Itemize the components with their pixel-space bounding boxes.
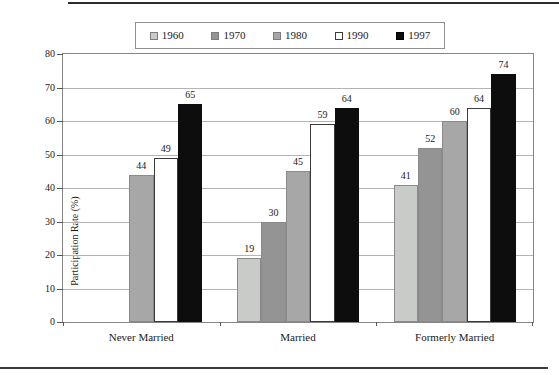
legend-label: 1997 <box>408 30 430 41</box>
legend-item-1980: 1980 <box>273 30 307 41</box>
bar-value-label: 19 <box>229 244 269 254</box>
bar-value-label: 49 <box>146 144 186 154</box>
bar-value-label: 64 <box>459 94 499 104</box>
legend-label: 1960 <box>162 30 184 41</box>
category-label-never-married: Never Married <box>63 332 220 343</box>
legend-label: 1980 <box>285 30 307 41</box>
y-tick-label: 60 <box>29 116 55 126</box>
bar-1990-formerly-married <box>467 108 491 322</box>
bar-1990-married <box>310 124 334 322</box>
bar-value-label: 60 <box>435 107 475 117</box>
figure: 19601970198019901997 Participation Rate … <box>0 0 559 375</box>
x-tick <box>532 322 533 326</box>
bar-1990-never-married <box>154 158 178 322</box>
bar-value-label: 41 <box>386 171 426 181</box>
y-tick-label: 20 <box>29 250 55 260</box>
legend-marker-1997 <box>396 32 404 40</box>
category-label-formerly-married: Formerly Married <box>376 332 533 343</box>
x-tick <box>63 322 64 326</box>
bar-value-label: 59 <box>302 110 342 120</box>
y-tick <box>57 54 63 55</box>
y-tick-label: 10 <box>29 284 55 294</box>
y-tick-label: 30 <box>29 217 55 227</box>
bar-1997-formerly-married <box>491 74 515 322</box>
bar-value-label: 64 <box>327 94 367 104</box>
legend-marker-1960 <box>150 32 158 40</box>
legend-marker-1970 <box>211 32 219 40</box>
gridline <box>63 88 533 89</box>
bar-value-label: 65 <box>170 90 210 100</box>
bar-value-label: 45 <box>278 157 318 167</box>
plot-area: Participation Rate (%) 01020304050607080… <box>62 53 534 323</box>
legend-item-1997: 1997 <box>396 30 430 41</box>
legend-marker-1990 <box>335 32 343 40</box>
legend-label: 1990 <box>347 30 369 41</box>
legend: 19601970198019901997 <box>135 22 445 49</box>
bar-value-label: 52 <box>410 134 450 144</box>
bar-1980-married <box>286 171 310 322</box>
legend-item-1990: 1990 <box>335 30 369 41</box>
bottom-rule <box>0 367 548 369</box>
category-label-married: Married <box>220 332 377 343</box>
bar-1980-never-married <box>129 175 153 322</box>
x-tick <box>220 322 221 326</box>
y-tick-label: 40 <box>29 183 55 193</box>
legend-label: 1970 <box>223 30 245 41</box>
y-tick-label: 50 <box>29 150 55 160</box>
legend-item-1970: 1970 <box>211 30 245 41</box>
x-tick <box>376 322 377 326</box>
legend-marker-1980 <box>273 32 281 40</box>
bar-1960-formerly-married <box>394 185 418 322</box>
y-tick-label: 70 <box>29 83 55 93</box>
bar-value-label: 74 <box>483 60 523 70</box>
bar-1997-never-married <box>178 104 202 322</box>
top-rule <box>68 2 559 4</box>
bar-1970-married <box>261 222 285 323</box>
y-tick-label: 80 <box>29 49 55 59</box>
bar-1997-married <box>335 108 359 322</box>
bar-1980-formerly-married <box>442 121 466 322</box>
y-axis-title: Participation Rate (%) <box>70 171 84 311</box>
y-tick-label: 0 <box>29 317 55 327</box>
bar-value-label: 44 <box>121 161 161 171</box>
bar-1960-married <box>237 258 261 322</box>
legend-item-1960: 1960 <box>150 30 184 41</box>
bar-value-label: 30 <box>254 208 294 218</box>
